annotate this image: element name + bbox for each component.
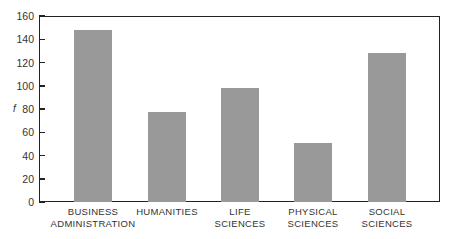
y-tick-label: 0: [4, 196, 34, 208]
y-tick-label: 120: [4, 57, 34, 69]
y-tick-label: 80: [4, 103, 34, 115]
bar-chart: f 020406080100120140160 BUSINESSADMINIST…: [0, 0, 458, 239]
y-tick: [39, 155, 45, 157]
y-tick-label: 140: [4, 33, 34, 45]
bar: [294, 143, 332, 202]
bar: [368, 53, 406, 202]
bar: [221, 88, 259, 202]
y-tick: [39, 178, 45, 180]
y-tick-label: 100: [4, 80, 34, 92]
x-category-label-line: SCIENCES: [337, 218, 437, 230]
x-category-label-line: ADMINISTRATION: [43, 218, 143, 230]
y-tick-label: 160: [4, 10, 34, 22]
y-tick: [39, 85, 45, 87]
y-tick: [39, 39, 45, 41]
bar: [74, 30, 112, 202]
y-tick: [39, 108, 45, 110]
y-tick: [39, 201, 45, 203]
y-tick-label: 60: [4, 126, 34, 138]
y-tick-label: 20: [4, 173, 34, 185]
y-tick: [39, 132, 45, 134]
x-category-label: SOCIALSCIENCES: [337, 206, 437, 230]
y-tick: [39, 62, 45, 64]
bar: [148, 112, 186, 202]
y-tick-label: 40: [4, 150, 34, 162]
y-tick: [39, 15, 45, 17]
x-category-label-line: SOCIAL: [337, 206, 437, 218]
